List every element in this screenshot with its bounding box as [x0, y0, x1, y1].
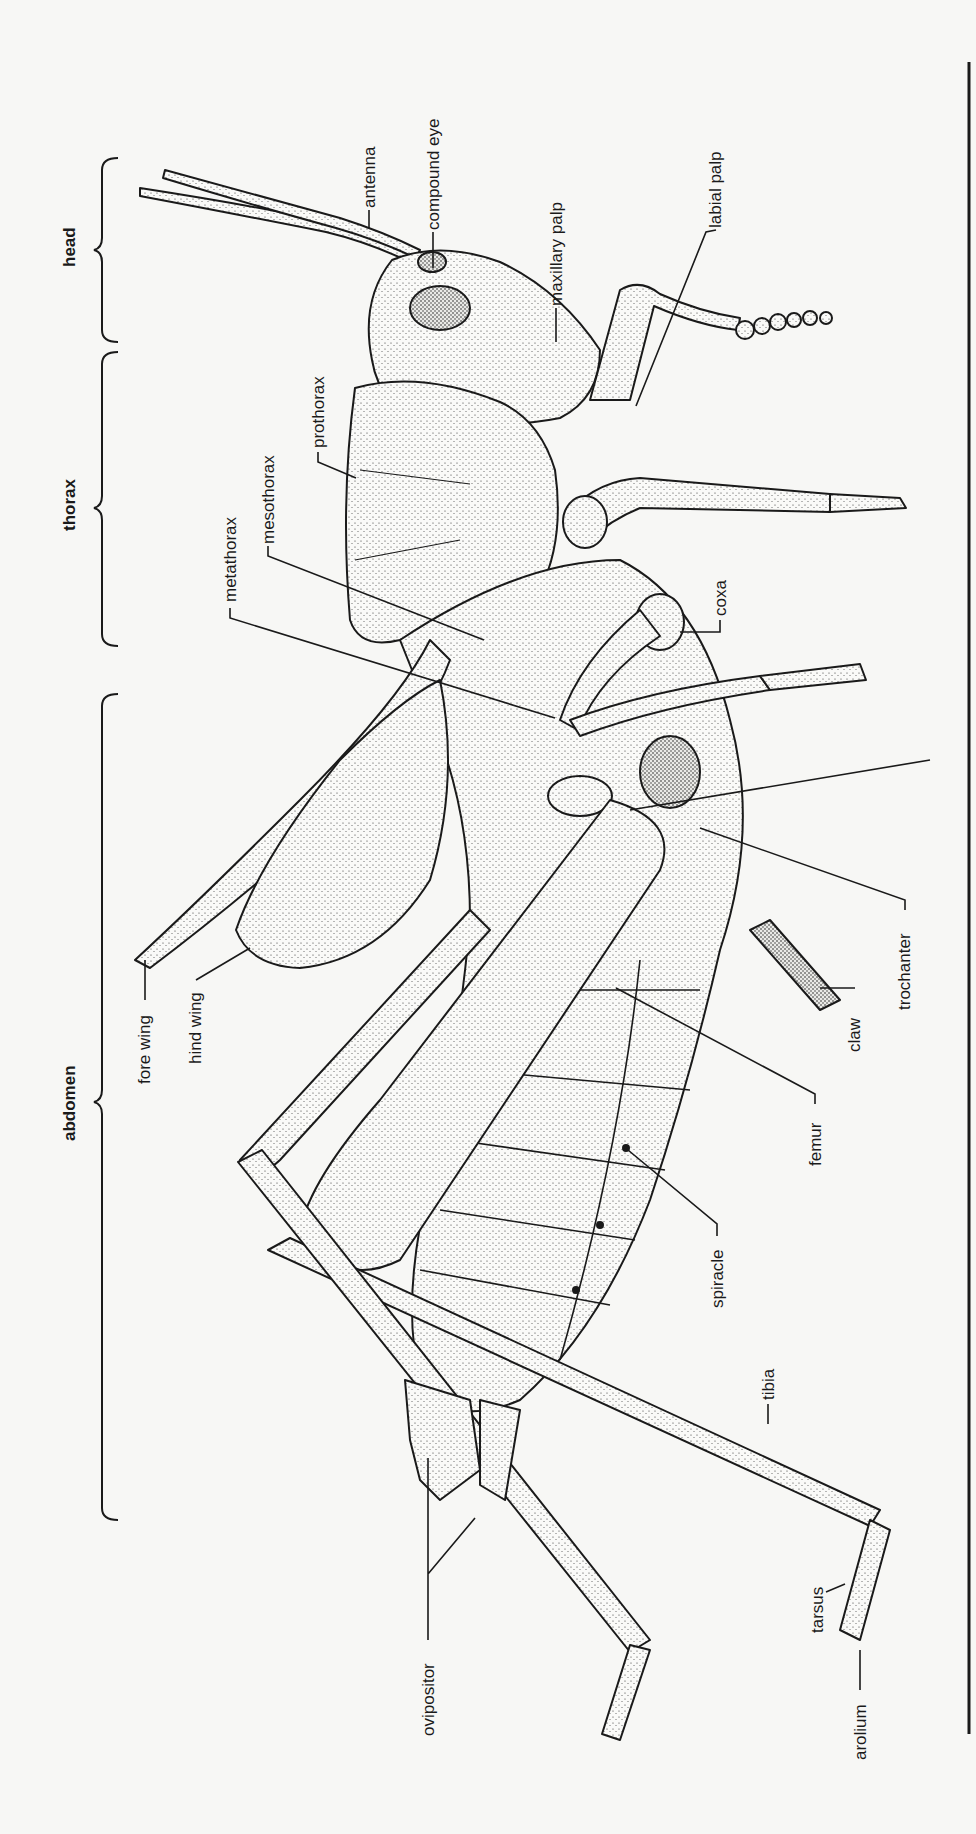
foreleg-coxa — [563, 496, 607, 548]
label-tibia: tibia — [760, 1369, 777, 1400]
leader-tarsus — [826, 1584, 845, 1592]
hind-tarsus — [840, 1520, 890, 1640]
head-brace — [94, 158, 118, 342]
label-arolium: arolium — [852, 1704, 869, 1760]
claw-leg — [750, 920, 840, 1010]
label-labial-palp: labial palp — [707, 151, 724, 228]
label-fore-wing: fore wing — [136, 1015, 153, 1084]
label-ovipositor: ovipositor — [420, 1663, 437, 1736]
label-compound-eye: compound eye — [425, 118, 442, 230]
foreleg — [570, 478, 830, 540]
label-maxillary-palp: maxillary palp — [548, 202, 565, 306]
grasshopper-diagram — [0, 0, 976, 1834]
region-label-thorax: thorax — [61, 479, 78, 531]
label-mesothorax: mesothorax — [260, 455, 277, 544]
compound-eye — [410, 286, 470, 330]
label-trochanter: trochanter — [896, 933, 913, 1010]
region-label-abdomen: abdomen — [61, 1065, 78, 1141]
palp-segments — [736, 311, 832, 339]
grasshopper-body — [135, 170, 906, 1740]
leader-hind-wing — [196, 948, 250, 980]
region-label-head: head — [61, 227, 78, 267]
far-tarsus — [602, 1645, 650, 1740]
label-tarsus: tarsus — [809, 1587, 826, 1633]
label-claw: claw — [846, 1018, 863, 1052]
region-braces — [94, 158, 118, 1520]
label-spiracle: spiracle — [709, 1249, 726, 1308]
label-antenna: antenna — [361, 147, 378, 208]
antennae — [140, 170, 430, 270]
label-prothorax: prothorax — [310, 376, 327, 448]
label-metathorax: metathorax — [222, 517, 239, 602]
label-femur: femur — [807, 1123, 824, 1166]
hind-wing — [236, 680, 448, 968]
label-coxa: coxa — [712, 580, 729, 616]
ocellus — [418, 252, 446, 272]
abdomen-brace — [94, 694, 118, 1520]
hind-coxa — [640, 736, 700, 808]
maxillary-palp — [590, 285, 740, 400]
thorax-brace — [94, 352, 118, 646]
label-hind-wing: hind wing — [187, 992, 204, 1064]
